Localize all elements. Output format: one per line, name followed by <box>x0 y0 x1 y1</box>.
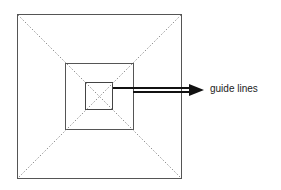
nested-squares-diagram <box>0 0 281 190</box>
inner-square <box>86 83 113 110</box>
guide-lines-label: guide lines <box>210 83 258 94</box>
guide-lines <box>18 15 181 178</box>
middle-square <box>66 64 134 130</box>
arrow-icon <box>113 84 204 96</box>
